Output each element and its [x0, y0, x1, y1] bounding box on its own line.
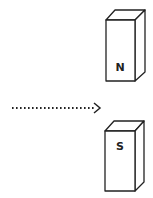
magnet-diagram: N S — [0, 0, 153, 198]
magnet-north-side-face — [135, 10, 145, 81]
magnet-north — [106, 10, 145, 81]
magnet-south-side-face — [135, 121, 144, 191]
arrowhead-icon — [94, 103, 100, 113]
magnet-south — [105, 121, 144, 191]
magnet-south-label: S — [116, 140, 124, 153]
magnet-north-label: N — [115, 61, 124, 74]
dotted-arrow — [12, 103, 100, 113]
